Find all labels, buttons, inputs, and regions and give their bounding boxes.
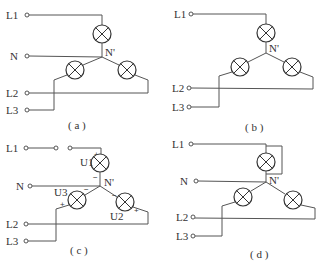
terminal-l2-label: L2 <box>176 211 188 223</box>
lamp-icon <box>116 193 134 211</box>
neutral-point-label: N' <box>269 42 279 54</box>
terminal-l1-icon <box>189 12 193 16</box>
u2-label: U2 <box>110 210 123 222</box>
terminal-l3-icon <box>25 108 29 112</box>
lamp-icon <box>234 188 252 206</box>
lamp-icon <box>91 154 109 172</box>
lamp-icon <box>231 58 249 76</box>
u3-label: U3 <box>54 186 68 198</box>
three-phase-lamp-diagrams: L1 N N' L2 <box>0 0 329 265</box>
terminal-l1-label: L1 <box>6 9 18 21</box>
terminal-l2-label: L2 <box>6 87 18 99</box>
panel-b: L1 N' L2 L3 ( b ) <box>172 8 313 134</box>
terminal-l3-icon <box>191 234 195 238</box>
terminal-l1-label: L1 <box>6 142 18 154</box>
terminal-l1-icon <box>189 142 193 146</box>
u1-minus-sign: − <box>93 173 98 182</box>
terminal-n-label: N <box>10 50 18 62</box>
switch-contact-icon <box>68 146 72 150</box>
panel-c: L1 + U1 − N N' U3 − + − <box>6 142 148 257</box>
panel-d: L1 N N' L2 L3 <box>172 138 315 261</box>
neutral-point-label: N' <box>105 46 115 58</box>
lamp-icon <box>66 61 84 79</box>
u3-minus-sign: − <box>84 185 89 194</box>
lamp-icon <box>283 58 301 76</box>
lamp-icon <box>257 24 275 42</box>
terminal-l2-icon <box>187 86 191 90</box>
terminal-l2-label: L2 <box>6 218 18 230</box>
terminal-n-icon <box>28 184 32 188</box>
terminal-n-icon <box>194 179 198 183</box>
terminal-n-label: N <box>16 180 24 192</box>
caption-a: ( a ) <box>68 119 86 132</box>
lamp-icon <box>118 61 136 79</box>
terminal-l1-label: L1 <box>174 8 186 20</box>
terminal-l3-icon <box>187 105 191 109</box>
lamp-icon <box>284 191 302 209</box>
terminal-n-label: N <box>180 175 188 187</box>
neutral-point-label: N' <box>269 174 279 186</box>
terminal-l1-icon <box>25 13 29 17</box>
terminal-l2-icon <box>24 222 28 226</box>
panel-a: L1 N N' L2 <box>6 9 148 132</box>
terminal-l3-label: L3 <box>172 101 185 113</box>
terminal-l3-icon <box>24 239 28 243</box>
caption-b: ( b ) <box>245 121 264 134</box>
terminal-n-icon <box>25 54 29 58</box>
terminal-l3-label: L3 <box>6 235 19 247</box>
neutral-point-label: N' <box>104 176 114 188</box>
terminal-l3-label: L3 <box>6 104 19 116</box>
caption-c: ( c ) <box>70 244 88 257</box>
terminal-l1-label: L1 <box>172 138 184 150</box>
terminal-l2-icon <box>191 215 195 219</box>
terminal-l3-label: L3 <box>176 230 189 242</box>
terminal-l2-icon <box>25 91 29 95</box>
switch-contact-icon <box>54 146 58 150</box>
lamp-icon <box>257 153 275 171</box>
terminal-l1-icon <box>24 146 28 150</box>
lamp-icon <box>93 25 111 43</box>
u1-label: U1 <box>80 156 93 168</box>
lamp-icon <box>68 191 86 209</box>
terminal-l2-label: L2 <box>172 82 184 94</box>
caption-d: ( d ) <box>250 248 269 261</box>
